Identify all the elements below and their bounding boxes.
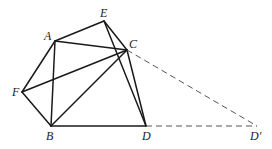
geometry-figure: AECFBDD′ [0, 0, 272, 149]
segment-a-f [22, 41, 55, 92]
segment-e-c [104, 21, 127, 50]
segment-e-d [104, 21, 146, 126]
segment-a-e [55, 21, 104, 41]
dashed-segments [127, 50, 257, 126]
dashed-segment-c-dprime [127, 50, 257, 126]
vertex-label-d: D [141, 129, 151, 143]
segment-a-b [51, 41, 55, 126]
vertex-label-f: F [11, 85, 20, 99]
segment-f-b [22, 92, 51, 126]
segment-a-c [55, 41, 127, 50]
vertex-label-dprime: D′ [249, 129, 262, 143]
solid-segments [22, 21, 146, 126]
vertex-label-e: E [99, 6, 108, 20]
segment-b-c [51, 50, 127, 126]
vertex-label-a: A [43, 29, 52, 43]
vertex-label-c: C [129, 37, 138, 51]
segment-c-d [127, 50, 146, 126]
vertex-label-b: B [46, 129, 54, 143]
segment-f-c [22, 50, 127, 92]
